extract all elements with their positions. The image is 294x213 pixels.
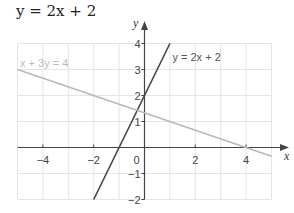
y-axis-label: y [132, 16, 139, 30]
line-label: x + 3y = 4 [20, 57, 68, 69]
x-tick-label: −4 [37, 154, 50, 166]
y-tick-label: −2 [128, 194, 141, 206]
y-tick-label: 4 [134, 38, 140, 50]
line-chart: xy −4−2024−2−11234 y = 2x + 2x + 3y = 4 [0, 0, 294, 213]
y-tick-label: 2 [134, 90, 140, 102]
y-tick-label: 1 [134, 116, 140, 128]
x-tick-label: 2 [192, 154, 198, 166]
x-axis-label: x [283, 149, 290, 163]
y-tick-label: −1 [128, 168, 141, 180]
y-axis-arrow-icon [141, 21, 148, 30]
x-tick-label: −2 [87, 154, 100, 166]
line-labels: y = 2x + 2x + 3y = 4 [20, 51, 221, 70]
line-label: y = 2x + 2 [172, 51, 220, 63]
x-tick-label: 0 [133, 154, 139, 166]
y-tick-label: 3 [134, 64, 140, 76]
x-tick-label: 4 [243, 154, 249, 166]
